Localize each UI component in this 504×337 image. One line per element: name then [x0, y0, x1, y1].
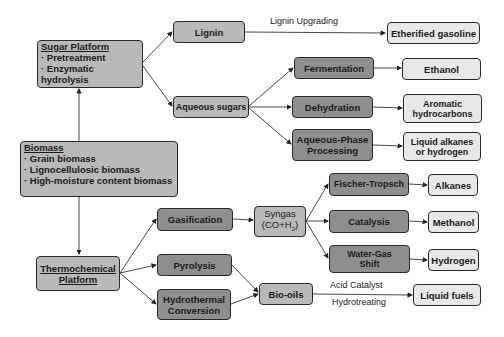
syngas-close: ) [295, 219, 298, 230]
sugar-platform-node: Sugar Platform · Pretreatment · Enzymati… [37, 40, 143, 88]
ethanol-node: Ethanol [402, 58, 481, 80]
fermentation-node: Fermentation [294, 57, 374, 79]
etherified-gasoline-node: Etherified gasoline [387, 22, 480, 44]
alkanes-node: Alkanes [428, 174, 478, 196]
aqueous-phase-processing-node: Aqueous-Phase Processing [292, 129, 373, 161]
liquid-fuels-node: Liquid fuels [413, 284, 481, 306]
liquid-alkanes-node: Liquid alkanes or hydrogen [403, 132, 481, 161]
lignin-upgrading-label: Lignin Upgrading [270, 16, 338, 26]
biomass-title: Biomass [24, 142, 64, 153]
hydrotreating-label: Hydrotreating [332, 297, 386, 307]
acid-catalyst-label: Acid Catalyst [330, 280, 383, 290]
syngas-node: Syngas (CO+H2) [254, 206, 306, 237]
syngas-line-2: (CO+H2) [262, 219, 298, 235]
sugar-platform-item: · Enzymatic hydrolysis [41, 63, 142, 85]
dehydration-node: Dehydration [292, 96, 373, 118]
syngas-formula: (CO+H [262, 219, 292, 230]
thermo-title-2: Platform [59, 274, 98, 285]
thermochemical-platform-node: Thermochemical Platform [36, 256, 120, 291]
biomass-node: Biomass · Grain biomass · Lignocellulosi… [20, 141, 178, 197]
lignin-node: Lignin [173, 21, 245, 43]
liquid-alkanes-line-2: or hydrogen [416, 147, 469, 157]
aromatic-line-2: hydrocarbons [412, 109, 472, 119]
biomass-item: · Lignocellulosic biomass [24, 164, 140, 175]
app-line-1: Aqueous-Phase [297, 134, 369, 145]
gasification-node: Gasification [157, 208, 233, 231]
pyrolysis-node: Pyrolysis [157, 254, 232, 276]
hydrogen-node: Hydrogen [428, 249, 479, 271]
liquid-alkanes-line-1: Liquid alkanes [411, 137, 474, 147]
sugar-platform-item: · Pretreatment [41, 52, 105, 63]
methanol-node: Methanol [428, 211, 479, 233]
app-line-2: Processing [307, 145, 358, 156]
hydrothermal-conversion-node: Hydrothermal Conversion [157, 289, 231, 320]
wgs-line-2: Shift [360, 259, 380, 269]
aqueous-sugars-node: Aqueous sugars [173, 96, 249, 118]
fischer-tropsch-node: Fischer-Tropsch [329, 173, 409, 196]
syngas-line-1: Syngas [264, 208, 296, 219]
bio-oils-node: Bio-oils [259, 283, 313, 305]
hydrothermal-line-1: Hydrothermal [163, 294, 225, 305]
wgs-line-1: Water-Gas [347, 249, 392, 259]
thermo-title-1: Thermochemical [40, 263, 116, 274]
sugar-platform-title: Sugar Platform [41, 41, 109, 52]
hydrothermal-line-2: Conversion [168, 305, 220, 316]
biomass-item: · High-moisture content biomass [24, 175, 172, 186]
water-gas-shift-node: Water-Gas Shift [329, 245, 410, 273]
catalysis-node: Catalysis [329, 210, 409, 233]
biomass-item: · Grain biomass [24, 153, 96, 164]
aromatic-line-1: Aromatic [423, 99, 462, 109]
aromatic-hydrocarbons-node: Aromatic hydrocarbons [403, 94, 482, 123]
